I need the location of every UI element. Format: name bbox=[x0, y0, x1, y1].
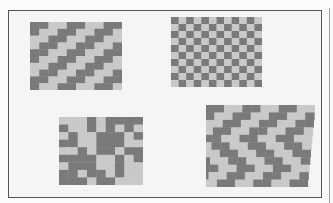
woven-mat-zigzag-twill bbox=[206, 105, 315, 187]
page-edge-line bbox=[329, 8, 330, 203]
woven-mat-irregular-blocks bbox=[59, 117, 143, 185]
woven-mat-diagonal-twill bbox=[30, 22, 122, 90]
woven-mat-checkerboard bbox=[171, 17, 262, 87]
